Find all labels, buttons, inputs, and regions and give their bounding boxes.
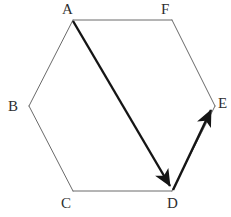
vertex-label-b: B xyxy=(8,99,18,114)
vertex-label-d: D xyxy=(167,196,178,211)
diagram-canvas xyxy=(0,0,231,217)
vertex-label-f: F xyxy=(161,2,169,17)
vector-group xyxy=(73,21,211,190)
vector-a-to-d xyxy=(73,21,170,186)
hexagon-vector-diagram: A B C D E F xyxy=(0,0,231,217)
vertex-label-c: C xyxy=(61,196,71,211)
vertex-label-e: E xyxy=(218,96,227,111)
edge-c-b xyxy=(29,106,73,191)
edge-b-a xyxy=(29,20,73,106)
vector-d-to-e xyxy=(173,110,211,190)
edge-f-e xyxy=(172,20,215,106)
vertex-label-a: A xyxy=(62,2,73,17)
